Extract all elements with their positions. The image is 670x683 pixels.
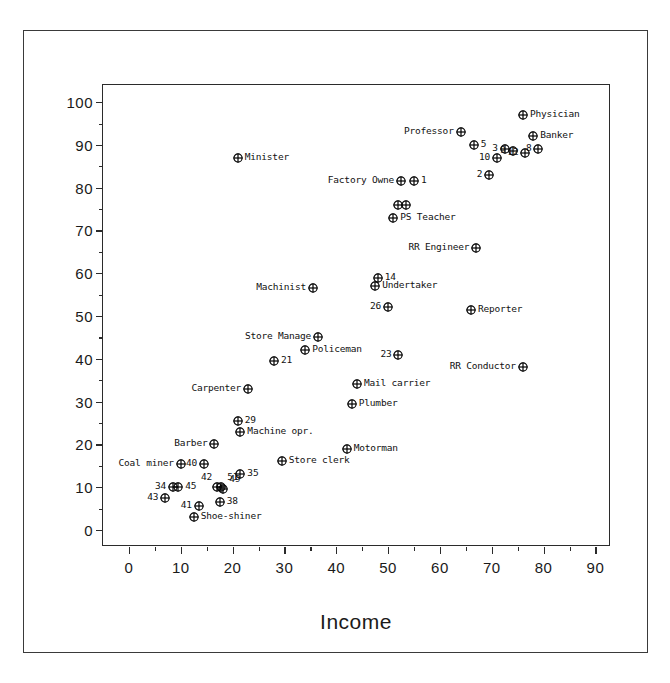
- circle-plus-marker-icon: [518, 362, 528, 372]
- x-tick-0: [129, 547, 130, 554]
- point-label: 26: [370, 301, 381, 311]
- point-label: Minister: [245, 152, 289, 162]
- y-tick-minor-75: [99, 209, 103, 210]
- x-tick-60: [440, 547, 441, 554]
- y-tick-60: [96, 273, 103, 274]
- circle-plus-marker-icon: [300, 345, 310, 355]
- point-label: 43: [147, 492, 158, 502]
- y-tick-label-100: 100: [66, 94, 93, 111]
- y-tick-label-60: 60: [75, 265, 93, 282]
- circle-plus-marker-icon: [401, 200, 411, 210]
- circle-plus-marker-icon: [209, 439, 219, 449]
- y-tick-label-50: 50: [75, 308, 93, 325]
- y-tick-30: [96, 402, 103, 403]
- point-label: Plumber: [359, 398, 398, 408]
- point-label: 35: [247, 468, 258, 478]
- point-label: Store Manage: [245, 331, 311, 341]
- x-tick-minor-45: [362, 547, 363, 551]
- point-label: Barber: [174, 438, 207, 448]
- x-tick-minor-25: [259, 547, 260, 551]
- point-label: Factory Owne: [328, 175, 394, 185]
- x-tick-label-90: 90: [587, 559, 605, 576]
- circle-plus-marker-icon: [235, 427, 245, 437]
- point-label: 38: [227, 496, 238, 506]
- x-tick-10: [181, 547, 182, 554]
- circle-plus-marker-icon: [370, 281, 380, 291]
- circle-plus-marker-icon: [492, 153, 502, 163]
- x-tick-label-50: 50: [379, 559, 397, 576]
- circle-plus-marker-icon: [313, 332, 323, 342]
- x-tick-minor-5: [155, 547, 156, 551]
- point-label: 1: [421, 175, 427, 185]
- y-tick-40: [96, 359, 103, 360]
- circle-plus-marker-icon: [528, 131, 538, 141]
- x-tick-label-30: 30: [276, 559, 294, 576]
- point-label: 49: [229, 474, 240, 484]
- circle-plus-marker-icon: [396, 176, 406, 186]
- point-label: Coal miner: [119, 458, 174, 468]
- circle-plus-marker-icon: [471, 243, 481, 253]
- point-label: Banker: [540, 130, 573, 140]
- circle-plus-marker-icon: [308, 283, 318, 293]
- x-tick-40: [336, 547, 337, 554]
- x-tick-label-60: 60: [431, 559, 449, 576]
- x-tick-label-10: 10: [172, 559, 190, 576]
- y-tick-100: [96, 102, 103, 103]
- y-tick-80: [96, 188, 103, 189]
- point-label: 5: [481, 139, 487, 149]
- x-tick-minor-65: [466, 547, 467, 551]
- y-tick-label-30: 30: [75, 393, 93, 410]
- circle-plus-marker-icon: [199, 459, 209, 469]
- point-label: 21: [281, 355, 292, 365]
- circle-plus-marker-icon: [176, 459, 186, 469]
- point-label: Machine opr.: [247, 426, 313, 436]
- x-tick-70: [492, 547, 493, 554]
- y-tick-label-20: 20: [75, 436, 93, 453]
- y-tick-minor-35: [99, 380, 103, 381]
- x-tick-20: [233, 547, 234, 554]
- x-tick-label-80: 80: [535, 559, 553, 576]
- x-tick-50: [388, 547, 389, 554]
- y-tick-minor-85: [99, 166, 103, 167]
- x-tick-minor-35: [310, 547, 311, 551]
- x-tick-label-20: 20: [224, 559, 242, 576]
- point-label: Store clerk: [289, 455, 350, 465]
- circle-plus-marker-icon: [342, 444, 352, 454]
- point-label: Mail carrier: [364, 378, 430, 388]
- y-tick-90: [96, 145, 103, 146]
- x-tick-minor-15: [207, 547, 208, 551]
- y-tick-label-40: 40: [75, 350, 93, 367]
- point-label: Professor: [404, 126, 454, 136]
- x-tick-label-40: 40: [327, 559, 345, 576]
- point-label: 41: [181, 500, 192, 510]
- circle-plus-marker-icon: [173, 482, 183, 492]
- y-tick-label-0: 0: [84, 521, 93, 538]
- x-tick-minor-85: [570, 547, 571, 551]
- point-label: 40: [186, 458, 197, 468]
- plot-area: 0102030405060708090 01020304050607080901…: [102, 84, 610, 546]
- point-label: Carpenter: [191, 383, 241, 393]
- circle-plus-marker-icon: [533, 144, 543, 154]
- x-tick-label-70: 70: [483, 559, 501, 576]
- circle-plus-marker-icon: [393, 350, 403, 360]
- x-tick-label-0: 0: [124, 559, 133, 576]
- point-label: Shoe-shiner: [201, 511, 262, 521]
- point-label: Motorman: [354, 443, 398, 453]
- point-label: 45: [185, 481, 196, 491]
- circle-plus-marker-icon: [520, 148, 530, 158]
- point-label: 10: [479, 152, 490, 162]
- x-tick-minor-55: [414, 547, 415, 551]
- point-label: 23: [380, 349, 391, 359]
- circle-plus-marker-icon: [347, 399, 357, 409]
- y-tick-0: [96, 530, 103, 531]
- y-tick-minor-5: [99, 509, 103, 510]
- circle-plus-marker-icon: [218, 484, 228, 494]
- circle-plus-marker-icon: [277, 456, 287, 466]
- circle-plus-marker-icon: [233, 153, 243, 163]
- circle-plus-marker-icon: [233, 416, 243, 426]
- circle-plus-marker-icon: [466, 305, 476, 315]
- point-label: 3: [492, 143, 498, 153]
- point-label: 34: [155, 481, 166, 491]
- point-label: Undertaker: [382, 280, 437, 290]
- y-tick-minor-45: [99, 337, 103, 338]
